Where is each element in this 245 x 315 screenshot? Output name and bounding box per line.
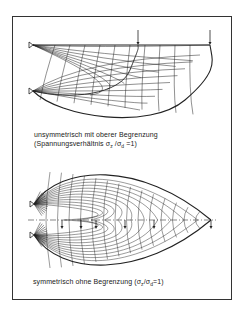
support-icon — [29, 42, 33, 48]
trajectory-line — [33, 91, 155, 96]
trajectory-line — [33, 69, 185, 91]
top-diagram-unsymmetric — [29, 30, 212, 118]
trajectory-line — [34, 185, 171, 220]
trajectory-line — [34, 204, 98, 220]
trajectory-line — [34, 220, 132, 246]
arrowhead-icon — [124, 226, 127, 229]
stress-trajectory-diagrams — [0, 0, 245, 315]
fan-line — [34, 224, 42, 235]
trajectory-line — [33, 45, 176, 66]
orthogonal-line — [158, 45, 160, 111]
trajectory-line — [33, 55, 200, 91]
support-icon — [29, 88, 33, 94]
trajectory-line — [34, 182, 184, 220]
arrowhead-icon — [80, 226, 83, 229]
upper-envelope — [34, 175, 211, 220]
orthogonal-line — [174, 45, 176, 113]
top-caption-line2: (Spannungsverhältnis σz /σd =1) — [34, 139, 158, 151]
bottom-caption: symmetrisch ohne Begrenzung (σz/σd=1) — [33, 277, 164, 289]
top-caption: unsymmetrisch mit oberer Begrenzung (Spa… — [34, 130, 158, 151]
arrowhead-icon — [210, 226, 213, 229]
orthogonal-line — [91, 45, 100, 105]
top-caption-line1: unsymmetrisch mit oberer Begrenzung — [34, 130, 158, 139]
trajectory-line — [34, 194, 132, 220]
lower-envelope — [34, 220, 211, 265]
fan-line — [34, 204, 45, 213]
fan-line — [34, 204, 42, 216]
arrowhead-icon — [61, 226, 64, 229]
bottom-diagram-symmetric — [28, 172, 216, 268]
support-icon — [30, 201, 34, 207]
arrowhead-icon — [153, 226, 156, 229]
support-icon — [30, 232, 34, 238]
